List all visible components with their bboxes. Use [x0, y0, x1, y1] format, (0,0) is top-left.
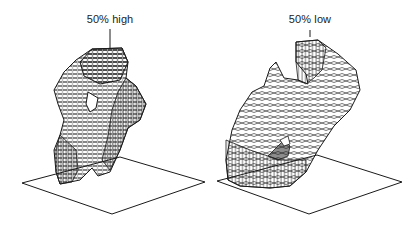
base-plane [22, 157, 205, 214]
panel-50-low: 50% low [210, 0, 419, 228]
isosurface-high-drawing [0, 0, 210, 228]
panel-50-high: 50% high [0, 0, 210, 228]
isosurface-low-drawing [210, 0, 419, 228]
